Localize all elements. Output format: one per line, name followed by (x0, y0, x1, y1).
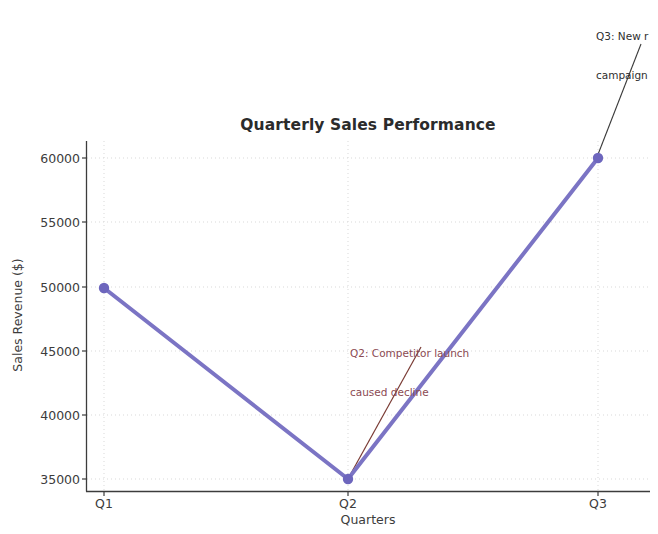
y-tick-label: 40000 (10, 408, 80, 423)
data-point-q2[interactable] (343, 474, 353, 484)
y-tick-label: 50000 (10, 280, 80, 295)
annotation-q2-line2: caused decline (350, 386, 469, 399)
x-tick-label-q3: Q3 (558, 496, 638, 511)
y-tick-label-group: 60000 55000 50000 45000 40000 35000 (8, 0, 80, 534)
chart-figure: Quarterly Sales Performance Sales Revenu… (0, 0, 658, 534)
annotation-q2-line1: Q2: Competitor launch (350, 347, 469, 360)
y-tick-label: 35000 (10, 472, 80, 487)
data-markers (99, 153, 603, 484)
x-tick-label-q1: Q1 (64, 496, 144, 511)
y-axis-ticks (82, 158, 86, 479)
data-point-q3[interactable] (593, 153, 603, 163)
chart-canvas (0, 0, 658, 534)
data-line-sales-revenue (104, 158, 598, 479)
y-tick-label: 60000 (10, 151, 80, 166)
x-axis-label: Quarters (86, 512, 650, 527)
annotation-q3-line2: campaign (596, 69, 648, 82)
y-tick-label: 45000 (10, 344, 80, 359)
annotation-q3-line1: Q3: New r (596, 30, 648, 43)
chart-title: Quarterly Sales Performance (86, 116, 650, 134)
x-tick-label-q2: Q2 (308, 496, 388, 511)
y-tick-label: 55000 (10, 215, 80, 230)
data-point-q1[interactable] (99, 283, 109, 293)
vertical-gridlines (104, 141, 598, 491)
annotation-q2: Q2: Competitor launch caused decline (350, 321, 469, 425)
annotation-q3: Q3: New r campaign (596, 4, 648, 108)
horizontal-gridlines (87, 158, 650, 479)
